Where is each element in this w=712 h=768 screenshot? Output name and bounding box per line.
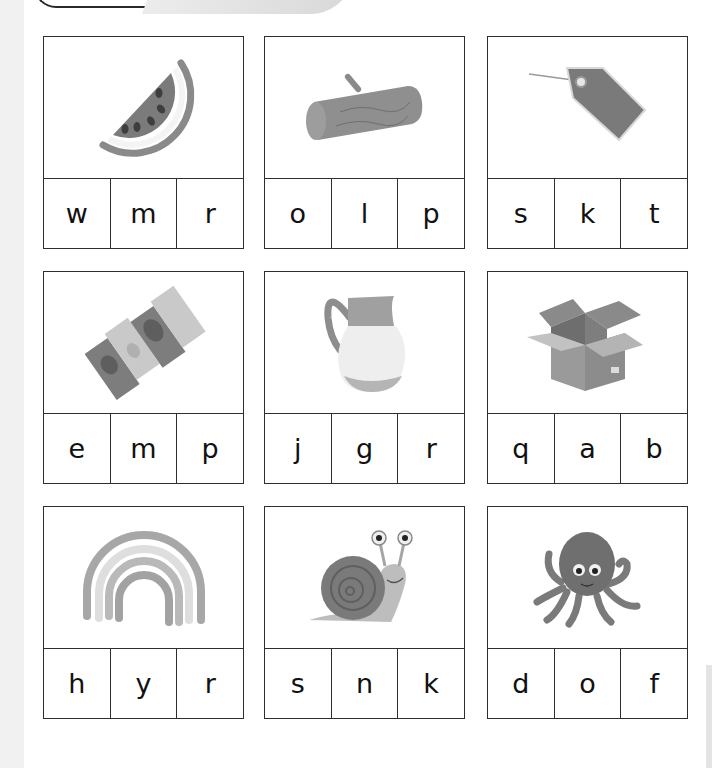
picture-area	[488, 507, 687, 649]
letter-choice[interactable]: w	[44, 178, 111, 248]
card-box: q a b	[487, 271, 688, 484]
letter-choice[interactable]: o	[555, 648, 622, 718]
letter-choice[interactable]: e	[44, 413, 111, 483]
letter-choices: s n k	[265, 648, 464, 718]
letter-choices: e m p	[44, 413, 243, 483]
picture-area	[44, 507, 243, 649]
picture-area	[265, 507, 464, 649]
picture-area	[488, 37, 687, 179]
snail-icon	[305, 528, 425, 628]
letter-choice[interactable]: q	[488, 413, 555, 483]
letter-choice[interactable]: r	[177, 648, 243, 718]
letter-choice[interactable]: y	[111, 648, 178, 718]
letter-choice[interactable]: r	[398, 413, 464, 483]
page-edge-shadow	[0, 0, 24, 768]
card-map: e m p	[43, 271, 244, 484]
header-outline-shape	[34, 0, 156, 8]
letter-choice[interactable]: d	[488, 648, 555, 718]
card-octopus: d o f	[487, 506, 688, 719]
letter-choices: h y r	[44, 648, 243, 718]
letter-choices: s k t	[488, 178, 687, 248]
octopus-icon	[533, 528, 643, 628]
box-icon	[523, 293, 653, 393]
letter-choice[interactable]: p	[398, 178, 464, 248]
letter-choices: q a b	[488, 413, 687, 483]
letter-choice[interactable]: m	[111, 178, 178, 248]
card-rainbow: h y r	[43, 506, 244, 719]
card-log: o l p	[264, 36, 465, 249]
card-snail: s n k	[264, 506, 465, 719]
card-tag: s k t	[487, 36, 688, 249]
letter-choice[interactable]: p	[177, 413, 243, 483]
letter-choice[interactable]: n	[332, 648, 399, 718]
letter-choice[interactable]: s	[488, 178, 555, 248]
letter-choice[interactable]: k	[398, 648, 464, 718]
jug-icon	[320, 288, 410, 398]
letter-choice[interactable]: f	[621, 648, 687, 718]
map-icon	[79, 283, 209, 403]
watermelon-icon	[89, 53, 199, 163]
letter-choice[interactable]: s	[265, 648, 332, 718]
letter-choice[interactable]: h	[44, 648, 111, 718]
letter-choice[interactable]: j	[265, 413, 332, 483]
letter-choices: d o f	[488, 648, 687, 718]
letter-choice[interactable]: t	[621, 178, 687, 248]
picture-area	[265, 272, 464, 414]
tag-icon	[523, 58, 653, 158]
letter-choice[interactable]: l	[332, 178, 399, 248]
card-jug: j g r	[264, 271, 465, 484]
page-edge-shadow-right	[706, 665, 712, 768]
picture-area	[265, 37, 464, 179]
picture-area	[44, 272, 243, 414]
letter-choice[interactable]: o	[265, 178, 332, 248]
letter-choice[interactable]: g	[332, 413, 399, 483]
log-icon	[300, 68, 430, 148]
card-watermelon: w m r	[43, 36, 244, 249]
letter-choice[interactable]: r	[177, 178, 243, 248]
letter-choices: w m r	[44, 178, 243, 248]
letter-choice[interactable]: b	[621, 413, 687, 483]
picture-area	[488, 272, 687, 414]
letter-choices: j g r	[265, 413, 464, 483]
letter-choice[interactable]: k	[555, 178, 622, 248]
rainbow-icon	[79, 530, 209, 626]
letter-choice[interactable]: m	[111, 413, 178, 483]
letter-choices: o l p	[265, 178, 464, 248]
header-banner-shape	[142, 0, 358, 14]
letter-choice[interactable]: a	[555, 413, 622, 483]
picture-area	[44, 37, 243, 179]
